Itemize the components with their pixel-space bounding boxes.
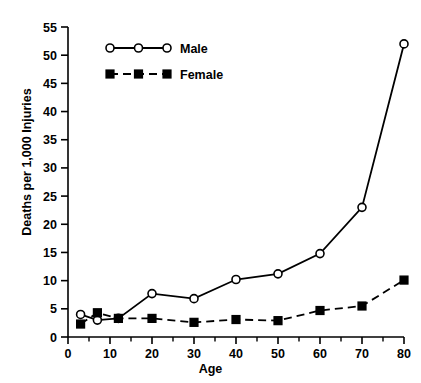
data-point-male: [190, 295, 198, 303]
y-tick-label: 40: [43, 105, 57, 119]
y-axis-ticks: 0510152025303540455055: [43, 21, 68, 345]
x-tick-label: 50: [271, 347, 285, 361]
y-tick-label: 5: [50, 302, 57, 316]
data-point-male: [400, 40, 408, 48]
x-tick-label: 20: [145, 347, 159, 361]
data-point-female: [148, 314, 156, 322]
data-point-female: [358, 302, 366, 310]
y-tick-label: 55: [43, 21, 57, 35]
y-tick-label: 10: [43, 274, 57, 288]
x-tick-label: 70: [355, 347, 369, 361]
x-axis-ticks: 01020304050607080: [65, 337, 411, 361]
line-chart-plot: 0510152025303540455055 01020304050607080…: [0, 0, 421, 383]
x-tick-label: 60: [313, 347, 327, 361]
data-point-male: [148, 290, 156, 298]
y-tick-label: 25: [43, 190, 57, 204]
data-point-female: [93, 309, 101, 317]
y-tick-label: 50: [43, 49, 57, 63]
legend-marker-male: [163, 44, 171, 52]
data-point-male: [316, 250, 324, 258]
chart-figure: Deaths per 1,000 Injuries Age 0510152025…: [0, 0, 421, 383]
legend-marker-male: [106, 44, 114, 52]
data-point-female: [274, 317, 282, 325]
data-point-male: [358, 203, 366, 211]
series-line-female: [81, 280, 404, 324]
data-point-male: [274, 270, 282, 278]
data-point-female: [400, 276, 408, 284]
legend-label-female: Female: [180, 68, 223, 82]
axis-lines: [68, 27, 404, 337]
data-point-female: [232, 316, 240, 324]
legend-marker-female: [106, 70, 114, 78]
chart-legend: MaleFemale: [106, 42, 223, 82]
y-tick-label: 35: [43, 133, 57, 147]
x-tick-label: 0: [65, 347, 72, 361]
data-point-female: [114, 314, 122, 322]
legend-marker-female: [135, 70, 143, 78]
y-tick-label: 30: [43, 161, 57, 175]
legend-marker-female: [163, 70, 171, 78]
y-tick-label: 45: [43, 77, 57, 91]
x-tick-label: 10: [103, 347, 117, 361]
data-point-female: [316, 307, 324, 315]
legend-label-male: Male: [180, 42, 208, 56]
data-point-male: [232, 276, 240, 284]
data-point-female: [190, 318, 198, 326]
x-tick-label: 80: [397, 347, 411, 361]
y-tick-label: 15: [43, 246, 57, 260]
data-point-male: [77, 310, 85, 318]
legend-marker-male: [135, 44, 143, 52]
x-tick-label: 40: [229, 347, 243, 361]
y-tick-label: 0: [50, 331, 57, 345]
data-series-group: [77, 40, 408, 328]
series-line-male: [81, 44, 404, 320]
x-tick-label: 30: [187, 347, 201, 361]
y-tick-label: 20: [43, 218, 57, 232]
data-point-female: [77, 320, 85, 328]
